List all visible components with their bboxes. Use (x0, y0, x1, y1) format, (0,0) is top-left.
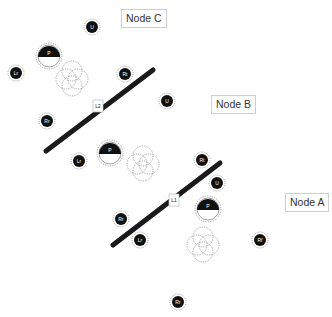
link-l2-label: L2 (95, 103, 101, 109)
b-u-antenna: U (159, 93, 175, 109)
link-l1-label: L1 (171, 197, 177, 203)
diagram-svg: L2L1PPPULrRtRrULrRtURrLrRfRr (0, 0, 332, 317)
a-u-label: U (215, 180, 219, 186)
rr-bottom-label: Rr (175, 299, 181, 305)
rr-bottom-antenna: Rr (170, 294, 186, 310)
a-rt-antenna: Rt (194, 152, 210, 168)
c-rt-label: Rt (123, 71, 129, 77)
a-lr-antenna: Lr (132, 232, 148, 248)
c-lr-label: Lr (14, 70, 19, 76)
c-rt-antenna: Rt (117, 66, 133, 82)
b-u-label: U (165, 98, 169, 104)
c-p-processor: P (36, 43, 62, 69)
node-a-label: Node A (285, 193, 329, 212)
a-rf-antenna: Rf (252, 232, 268, 248)
node-c-label: Node C (121, 9, 167, 28)
network-diagram: L2L1PPPULrRtRrULrRtURrLrRfRr Node C Node… (0, 0, 332, 317)
c-rr-label: Rr (44, 118, 50, 124)
a-rr-antenna: Rr (113, 211, 129, 227)
b-lr-label: Lr (77, 158, 82, 164)
b-cluster-cluster (127, 146, 159, 181)
a-cluster-cluster (187, 227, 219, 262)
a-u-antenna: U (209, 175, 225, 191)
c-u-antenna: U (84, 19, 100, 35)
a-rf-label: Rf (258, 237, 264, 243)
node-b-label: Node B (211, 95, 256, 114)
link-l2: L2 (46, 70, 153, 151)
b-lr-antenna: Lr (71, 153, 87, 169)
c-rr-antenna: Rr (39, 113, 55, 129)
a-rr-label: Rr (118, 216, 124, 222)
a-lr-label: Lr (138, 237, 143, 243)
a-rt-label: Rt (200, 157, 206, 163)
a-p-processor: P (195, 196, 221, 222)
b-p-processor: P (97, 140, 123, 166)
c-u-label: U (90, 24, 94, 30)
c-cluster-cluster (56, 61, 88, 96)
c-lr-antenna: Lr (8, 65, 24, 81)
